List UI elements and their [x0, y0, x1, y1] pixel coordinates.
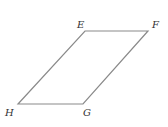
vertex-label-g: G — [83, 107, 91, 118]
vertex-label-h: H — [4, 107, 14, 118]
vertex-label-e: E — [76, 19, 85, 30]
parallelogram-diagram: E F H G — [0, 0, 168, 127]
parallelogram-efgh — [18, 31, 148, 104]
vertex-label-f: F — [151, 19, 160, 30]
